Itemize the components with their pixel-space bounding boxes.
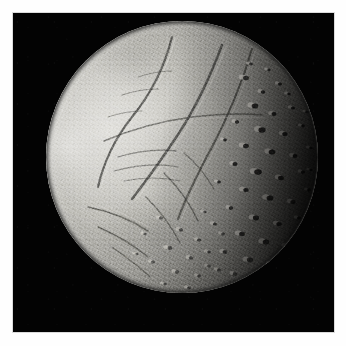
space-background <box>13 13 334 332</box>
disc-edge-softening <box>46 21 318 293</box>
moon-disc <box>46 21 318 293</box>
image-canvas: Icy moon disc, brightly lit on the left … <box>0 0 346 346</box>
